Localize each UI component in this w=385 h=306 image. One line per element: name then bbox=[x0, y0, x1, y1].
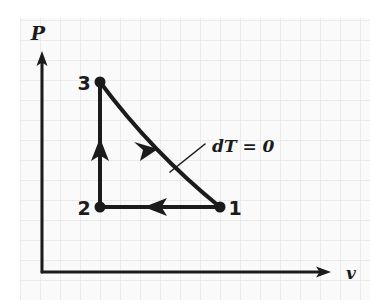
state-label-1: 1 bbox=[228, 197, 241, 219]
isotherm-annotation-label: dT = 0 bbox=[212, 136, 275, 156]
state-label-3: 3 bbox=[77, 72, 90, 94]
pv-diagram-figure: P v 1 2 3 dT = 0 bbox=[0, 0, 385, 306]
state-point-2-marker[interactable] bbox=[95, 202, 106, 213]
state-label-2: 2 bbox=[77, 197, 90, 219]
state-point-3-marker[interactable] bbox=[95, 77, 106, 88]
pv-diagram-canvas: P v 1 2 3 dT = 0 bbox=[0, 0, 385, 306]
state-point-1-marker[interactable] bbox=[215, 202, 226, 213]
graph-paper-grid bbox=[20, 18, 370, 300]
v-axis-label: v bbox=[346, 263, 357, 283]
p-axis-label: P bbox=[30, 22, 46, 44]
